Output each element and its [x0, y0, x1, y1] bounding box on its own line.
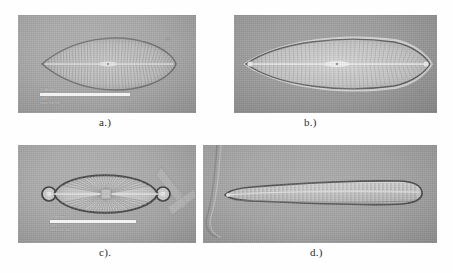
scalebar-c-bar [50, 220, 136, 223]
panel-b-micrograph [234, 15, 437, 113]
caption-b: b.) [304, 116, 317, 128]
caption-a: a.) [99, 116, 111, 128]
figure-plate: 10 Microns 20kV Leica 500 1kX a.) [0, 0, 453, 273]
panel-b-field [234, 15, 437, 113]
panel-c: 10 Microns 20kV Leica 500 1kX [18, 145, 196, 243]
caption-c: c). [99, 246, 111, 258]
scalebar-a-label: 10 Microns [40, 88, 130, 92]
panel-b [234, 15, 437, 113]
scalebar-a: 10 Microns 20kV Leica 500 1kX [40, 88, 130, 105]
panel-d [203, 145, 437, 243]
scalebar-c-meta-2: Leica 500 1kX [50, 228, 136, 232]
caption-d: d.) [310, 246, 323, 258]
panel-d-field [203, 145, 437, 243]
scalebar-c: 10 Microns 20kV Leica 500 1kX [50, 215, 136, 232]
scalebar-a-bar [40, 93, 130, 96]
panel-a: 10 Microns 20kV Leica 500 1kX [18, 15, 196, 113]
scalebar-a-meta-2: Leica 500 1kX [40, 101, 130, 105]
scalebar-c-label: 10 Microns [50, 215, 136, 219]
panel-d-micrograph [203, 145, 437, 243]
